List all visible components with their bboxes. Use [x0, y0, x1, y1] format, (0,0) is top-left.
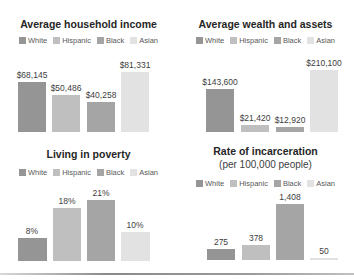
value-label: $68,145 [17, 70, 48, 80]
value-label: 21% [92, 188, 109, 198]
chart-household-income: Average household income White Hispanic … [0, 0, 177, 140]
legend-item-black: Black [97, 168, 124, 177]
chart-legend: White Hispanic Black Asian [177, 36, 354, 45]
legend-item-white: White [196, 179, 224, 188]
bar-white [18, 82, 46, 132]
value-label: $21,420 [240, 113, 271, 123]
value-label: 10% [126, 220, 143, 230]
legend-item-white: White [19, 36, 47, 45]
chart-wealth-assets: Average wealth and assets White Hispanic… [177, 0, 354, 140]
bar-hispanic [242, 245, 270, 260]
bar-black [87, 102, 115, 132]
bar-asian [121, 232, 150, 261]
chart-title: Living in poverty [0, 148, 177, 160]
value-label: 378 [249, 233, 263, 243]
value-label: $210,100 [306, 58, 341, 68]
value-label: 275 [214, 237, 228, 247]
value-label: $143,600 [202, 77, 237, 87]
chart-title: Average household income [0, 18, 177, 30]
bar-asian [310, 70, 338, 132]
value-label: 50 [319, 246, 328, 256]
legend-item-asian: Asian [130, 168, 158, 177]
value-label: 18% [58, 196, 75, 206]
chart-incarceration: Rate of incarceration (per 100,000 peopl… [177, 140, 354, 275]
bar-hispanic [241, 125, 269, 132]
value-label: $50,486 [51, 83, 82, 93]
bar-asian [310, 258, 338, 260]
bar-black [87, 200, 115, 261]
bottom-divider [0, 273, 354, 275]
bar-white [18, 238, 47, 261]
value-label: $12,920 [275, 115, 306, 125]
value-label: 8% [26, 226, 38, 236]
bar-white [207, 249, 235, 260]
chart-title: Rate of incarceration [177, 145, 354, 157]
value-label: 1,408 [279, 192, 300, 202]
chart-legend: White Hispanic Black Asian [177, 179, 354, 188]
legend-item-hispanic: Hispanic [230, 179, 268, 188]
legend-item-asian: Asian [307, 36, 335, 45]
legend-item-white: White [19, 168, 47, 177]
chart-poverty: Living in poverty White Hispanic Black A… [0, 140, 177, 275]
chart-title: Average wealth and assets [177, 18, 354, 30]
legend-item-black: Black [274, 179, 301, 188]
legend-item-asian: Asian [130, 36, 158, 45]
bar-hispanic [53, 208, 81, 261]
legend-item-black: Black [274, 36, 301, 45]
legend-item-hispanic: Hispanic [53, 168, 91, 177]
chart-legend: White Hispanic Black Asian [0, 168, 177, 177]
bar-asian [121, 72, 149, 132]
chart-legend: White Hispanic Black Asian [0, 36, 177, 45]
bar-hispanic [52, 95, 80, 132]
legend-item-hispanic: Hispanic [53, 36, 91, 45]
chart-subtitle: (per 100,000 people) [177, 159, 354, 170]
legend-item-asian: Asian [307, 179, 335, 188]
legend-item-hispanic: Hispanic [230, 36, 268, 45]
value-label: $40,258 [86, 90, 117, 100]
legend-item-black: Black [97, 36, 124, 45]
bar-black [276, 204, 304, 260]
value-label: $81,331 [120, 60, 151, 70]
bar-black [276, 127, 304, 132]
bar-white [206, 89, 234, 132]
legend-item-white: White [196, 36, 224, 45]
